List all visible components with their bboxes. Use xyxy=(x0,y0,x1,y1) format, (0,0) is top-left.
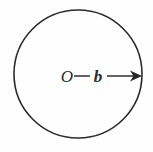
circle-radius-diagram: O b xyxy=(0,0,153,152)
circle-outline xyxy=(14,10,142,138)
center-point-label: O xyxy=(61,67,73,86)
figure-container: O b xyxy=(0,0,153,152)
radius-label: b xyxy=(94,67,103,86)
